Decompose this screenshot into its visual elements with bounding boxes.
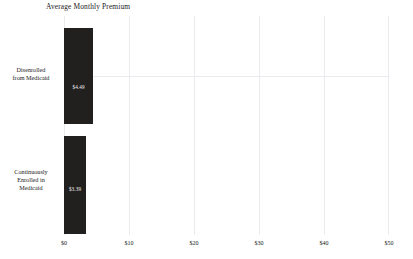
bar-disenrolled: $4.49 xyxy=(64,28,93,124)
bar-continuously-enrolled: $3.39 xyxy=(64,136,86,234)
bar-value-label: $4.49 xyxy=(72,84,84,90)
gridline-vertical-50 xyxy=(388,16,389,235)
xtick-label-40: $40 xyxy=(320,240,329,246)
plot-area: $4.49 $3.39 xyxy=(64,16,389,235)
category-label-line: Enrolled in xyxy=(2,176,60,184)
xtick-label-0: $0 xyxy=(61,240,67,246)
category-label-line: from Medicaid xyxy=(2,74,60,82)
category-label-continuously-enrolled: Continuously Enrolled in Medicaid xyxy=(2,168,60,191)
chart-title: Average Monthly Premium xyxy=(46,2,130,11)
xtick-label-20: $20 xyxy=(190,240,199,246)
category-label-line: Medicaid xyxy=(2,184,60,192)
gridline-vertical-20 xyxy=(194,16,195,235)
gridline-vertical-30 xyxy=(259,16,260,235)
category-label-line: Disenrolled xyxy=(2,66,60,74)
category-label-disenrolled: Disenrolled from Medicaid xyxy=(2,66,60,82)
gridline-horizontal-category-divider xyxy=(64,76,389,77)
xtick-label-50: $50 xyxy=(385,240,394,246)
gridline-vertical-40 xyxy=(324,16,325,235)
category-label-line: Continuously xyxy=(2,168,60,176)
xtick-label-30: $30 xyxy=(255,240,264,246)
bar-value-label: $3.39 xyxy=(69,186,81,192)
gridline-vertical-10 xyxy=(129,16,130,235)
chart-container: Average Monthly Premium Disenrolled from… xyxy=(0,0,413,259)
xtick-label-10: $10 xyxy=(125,240,134,246)
